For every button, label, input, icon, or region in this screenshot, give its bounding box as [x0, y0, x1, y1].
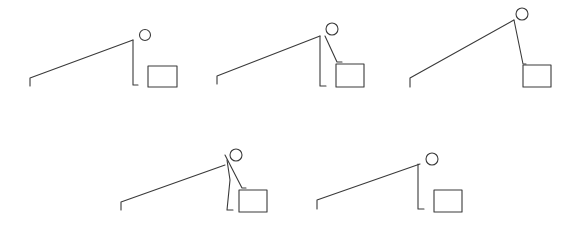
head-circle: [426, 153, 438, 165]
head-circle: [516, 8, 528, 20]
body-line: [320, 36, 326, 86]
head-circle: [140, 30, 151, 41]
box-rect: [336, 64, 364, 87]
box-rect: [148, 66, 177, 87]
box-rect: [239, 190, 267, 212]
pole-line: [217, 36, 320, 84]
body-line: [227, 160, 233, 210]
box-rect: [523, 65, 551, 87]
arm-line: [325, 36, 342, 62]
arm-line: [514, 20, 526, 64]
head-circle: [230, 149, 242, 161]
pole-line: [317, 164, 420, 209]
lifting-posture-diagram: [0, 0, 577, 228]
stick-figure-1: [30, 30, 177, 88]
box-rect: [434, 190, 462, 212]
head-circle: [326, 23, 338, 35]
pole-line: [121, 165, 225, 210]
pole-line: [410, 20, 514, 87]
stick-figure-4: [121, 149, 267, 212]
stick-figure-2: [217, 23, 364, 87]
stick-figure-5: [317, 153, 462, 212]
stick-figure-3: [410, 8, 551, 87]
body-line: [418, 164, 424, 209]
arm-line: [225, 155, 246, 188]
body-line: [133, 40, 138, 85]
pole-line: [30, 40, 133, 86]
figures-layer: [30, 8, 551, 212]
